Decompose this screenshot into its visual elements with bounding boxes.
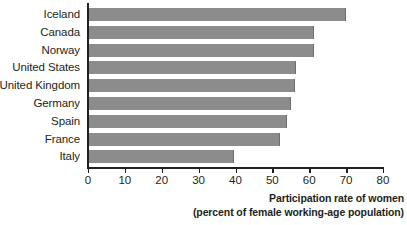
x-tick-label: 60 [289,173,329,187]
category-label: France [45,133,80,146]
bar [88,61,296,74]
x-tick-label: 70 [326,173,366,187]
category-label: United Kingdom [0,79,80,92]
category-label: Iceland [44,8,80,21]
category-label: Canada [40,26,80,39]
x-axis-ticks: 01020304050607080 [88,168,383,190]
x-axis-title-line-2: (percent of female working-age populatio… [0,205,404,219]
x-axis-title-line-1: Participation rate of women [269,192,404,204]
category-label: Norway [42,44,80,57]
bar [88,44,314,57]
y-axis-line [87,3,89,168]
x-tick-label: 30 [179,173,219,187]
category-label: Spain [51,115,80,128]
category-label: Germany [33,97,80,110]
x-tick-label: 50 [252,173,292,187]
x-tick-label: 0 [68,173,108,187]
x-axis-title: Participation rate of women (percent of … [0,191,404,219]
x-tick-label: 10 [105,173,145,187]
bar [88,150,234,163]
bar [88,79,295,92]
bar [88,97,291,110]
bar-chart: IcelandCanadaNorwayUnited StatesUnited K… [0,0,407,225]
category-axis: IcelandCanadaNorwayUnited StatesUnited K… [0,3,84,163]
bar [88,133,280,146]
x-tick-label: 40 [216,173,256,187]
bar [88,8,346,21]
plot-area [88,3,383,163]
category-label: United States [12,61,80,74]
x-tick-label: 80 [363,173,403,187]
bar [88,115,287,128]
x-tick-label: 20 [142,173,182,187]
category-label: Italy [59,150,80,163]
bar [88,26,314,39]
